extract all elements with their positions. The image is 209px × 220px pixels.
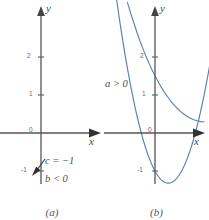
caption-b: (b) [104,206,209,218]
x-axis-label: x [194,135,199,147]
y-tick-label-minus-1: -1 [137,166,143,173]
note-a-greater-than-zero: a > 0 [105,78,128,89]
y-tick-label-2: 2 [27,52,31,59]
panel-a-axes [0,0,104,196]
y-tick-label-1: 1 [29,90,33,97]
origin-tick-label-0: 0 [29,126,33,133]
note-c-equals-minus-one: c = −1 [45,155,74,166]
caption-a: (a) [0,206,104,218]
note-b-less-than-zero: b < 0 [45,173,68,184]
origin-tick-label-0: 0 [148,126,152,133]
x-axis-label: x [89,135,94,147]
y-tick-label-2: 2 [140,52,144,59]
two-panel-parabola-figure: y x 2 1 0 -1 c = −1 b < 0 [0,0,209,220]
y-tick-label-minus-1: -1 [21,166,27,173]
panel-a: y x 2 1 0 -1 c = −1 b < 0 [0,0,104,196]
panel-b-axes-and-curve [104,0,209,196]
y-tick-label-1: 1 [142,90,146,97]
y-axis-label: y [160,2,165,14]
y-axis-label: y [46,2,51,14]
panel-b: y x 2 1 0 -1 a > 0 [104,0,209,196]
y-axis-arrowhead [151,6,159,16]
parabola-unused [126,0,209,130]
parabola-left-branch [127,2,204,122]
parabola-curve [116,0,209,183]
y-axis-arrowhead [37,6,45,16]
spacer2 [133,0,168,183]
